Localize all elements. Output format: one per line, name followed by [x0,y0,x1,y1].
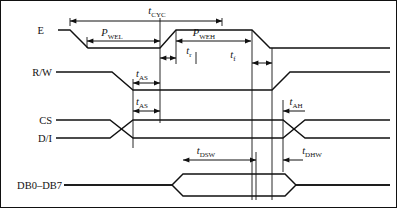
signal-label-di: D/I [38,133,53,144]
timing-diagram-canvas: E R/W CS D/I DB0–DB7 tCYC PWEL PWEH tr t… [0,0,397,208]
signal-label-rw: R/W [32,67,52,78]
timing-diagram-figure: E R/W CS D/I DB0–DB7 tCYC PWEL PWEH tr t… [0,0,397,208]
signal-label-cs: CS [39,115,52,126]
signal-label-e: E [38,25,44,36]
signal-label-db: DB0–DB7 [17,180,62,191]
